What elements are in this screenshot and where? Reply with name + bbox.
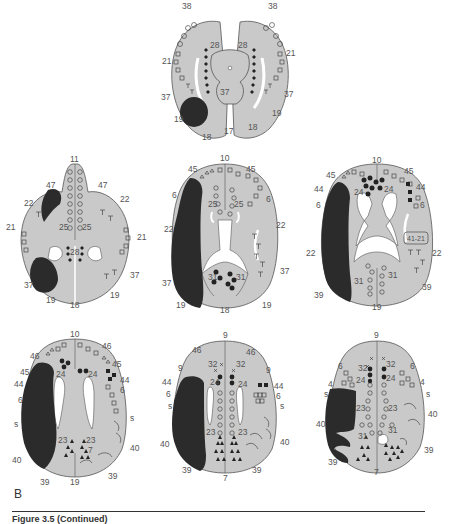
- label-45: 45: [20, 367, 30, 377]
- brain-slice-3: 10 45 45 6 6 25 25 22 22 37 37 31 31 19 …: [150, 150, 300, 310]
- slice-7-drawing: 9 6 6 32 32 24 24 4 4 s s 23 23 40 40 31…: [300, 325, 454, 485]
- label-22: 22: [432, 248, 442, 258]
- panel-label: B: [14, 487, 22, 501]
- label-6: 6: [166, 389, 171, 399]
- label-39: 39: [40, 477, 50, 487]
- label-19: 19: [372, 302, 382, 312]
- label-22: 22: [164, 224, 174, 234]
- label-19: 19: [110, 290, 120, 300]
- label-7: 7: [223, 473, 228, 483]
- label-31: 31: [354, 276, 364, 286]
- label-21: 21: [286, 48, 296, 58]
- label-4: 4: [420, 377, 425, 387]
- label-4: 4: [328, 379, 333, 389]
- label-6: 6: [338, 361, 343, 371]
- label-40: 40: [280, 437, 290, 447]
- brain-slice-7: 9 6 6 32 32 24 24 4 4 s s 23 23 40 40 31…: [300, 325, 454, 485]
- label-40: 40: [12, 455, 22, 465]
- label-s: s: [130, 413, 134, 423]
- label-18: 18: [202, 132, 212, 142]
- label-44: 44: [162, 377, 172, 387]
- label-39: 39: [252, 465, 262, 475]
- label-32: 32: [386, 359, 396, 369]
- label-6: 6: [316, 200, 321, 210]
- label-24: 24: [384, 184, 394, 194]
- label-44: 44: [416, 182, 426, 192]
- label-22: 22: [120, 194, 130, 204]
- lesion: [180, 97, 208, 127]
- label-6: 6: [410, 361, 415, 371]
- label-44: 44: [274, 381, 284, 391]
- label-23: 23: [388, 403, 398, 413]
- label-32: 32: [236, 359, 246, 369]
- slice-2-drawing: 11 47 47 22 22 21 21 25 25 28 37 37 19 1…: [0, 150, 150, 310]
- label-31: 31: [208, 272, 218, 282]
- label-39: 39: [424, 445, 434, 455]
- label-18: 18: [248, 122, 258, 132]
- label-39: 39: [108, 471, 118, 481]
- label-21: 21: [162, 56, 172, 66]
- label-9: 9: [178, 363, 183, 373]
- label-19: 19: [176, 300, 186, 310]
- label-21: 21: [6, 222, 16, 232]
- label-25: 25: [234, 199, 244, 209]
- brain-slice-4: 10 45 45 44 44 6 6 24 24 22 22 41-21 31 …: [300, 150, 454, 310]
- label-32: 32: [358, 363, 368, 373]
- label-s: s: [168, 401, 172, 411]
- figure-caption: Figure 3.5 (Continued): [12, 514, 108, 524]
- label-6: 6: [172, 190, 177, 200]
- label-19: 19: [70, 477, 80, 487]
- label-28: 28: [210, 40, 220, 50]
- label-19: 19: [272, 108, 282, 118]
- slice-5-drawing: 10 46 46 45 45 44 44 6 6 24 24 s s 23 23…: [0, 325, 150, 485]
- label-6: 6: [266, 194, 271, 204]
- brain-slice-2: 11 47 47 22 22 21 21 25 25 28 37 37 19 1…: [0, 150, 150, 310]
- label-31: 31: [388, 270, 398, 280]
- label-6: 6: [18, 395, 23, 405]
- label-23: 23: [86, 435, 96, 445]
- label-45: 45: [246, 164, 256, 174]
- label-45: 45: [188, 164, 198, 174]
- label-24: 24: [356, 375, 366, 385]
- label-37: 37: [220, 87, 230, 97]
- label-10: 10: [372, 155, 382, 165]
- label-39: 39: [314, 290, 324, 300]
- label-17: 17: [224, 126, 234, 136]
- label-38: 38: [182, 1, 192, 11]
- label-6: 6: [420, 200, 425, 210]
- label-18: 18: [70, 300, 80, 310]
- label-9: 9: [266, 365, 271, 375]
- label-19: 19: [46, 295, 56, 305]
- label-37: 37: [280, 266, 290, 276]
- label-40: 40: [316, 419, 326, 429]
- label-21: 21: [137, 232, 147, 242]
- label-19: 19: [174, 114, 184, 124]
- label-10: 10: [70, 329, 80, 339]
- brain-slice-6: 9 9 9 46 46 32 32 44 44 6 6 24 24 s s 23…: [150, 325, 300, 485]
- label-19: 19: [262, 300, 272, 310]
- brain-slice-5: 10 46 46 45 45 44 44 6 6 24 24 s s 23 23…: [0, 325, 150, 485]
- label-44: 44: [120, 375, 130, 385]
- label-s: s: [14, 419, 18, 429]
- label-10: 10: [220, 153, 230, 163]
- label-46: 46: [30, 351, 40, 361]
- label-37: 37: [284, 89, 294, 99]
- label-46: 46: [192, 345, 202, 355]
- slice-6-drawing: 9 9 9 46 46 32 32 44 44 6 6 24 24 s s 23…: [150, 325, 300, 485]
- label-31: 31: [388, 425, 398, 435]
- label-22: 22: [306, 248, 316, 258]
- label-18: 18: [220, 305, 230, 315]
- label-37: 37: [24, 280, 34, 290]
- label-24: 24: [210, 377, 220, 387]
- label-47: 47: [46, 180, 56, 190]
- label-25: 25: [59, 222, 69, 232]
- label-40: 40: [428, 409, 438, 419]
- label-24: 24: [386, 373, 396, 383]
- label-37: 37: [162, 278, 172, 288]
- label-45: 45: [112, 359, 122, 369]
- label-6: 6: [276, 391, 281, 401]
- label-32: 32: [208, 359, 218, 369]
- label-38: 38: [268, 1, 278, 11]
- label-23: 23: [58, 435, 68, 445]
- label-39: 39: [422, 282, 432, 292]
